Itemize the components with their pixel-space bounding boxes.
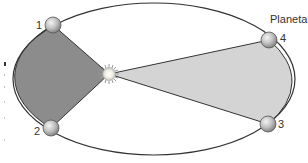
planet-4-label: 4 (280, 32, 286, 44)
kepler-equal-areas-diagram: 1 2 3 4 Planeta (0, 0, 308, 163)
swept-area-sector-1-2 (15, 25, 109, 128)
planet-sphere-icon (261, 32, 277, 48)
planet-1-label: 1 (36, 19, 42, 31)
swept-area-sector-3-4 (109, 40, 292, 124)
planeta-label: Planeta (270, 13, 308, 25)
planet-2-label: 2 (34, 125, 40, 137)
planet-sphere-icon (43, 120, 59, 136)
planet-sphere-icon (260, 116, 276, 132)
planet-sphere-icon (45, 17, 61, 33)
planet-1: 1 (36, 17, 61, 33)
planet-3: 3 (260, 116, 284, 132)
planet-3-label: 3 (278, 118, 284, 130)
planet-4: 4 (261, 32, 286, 48)
cropped-edge-marks (4, 62, 6, 141)
sun-icon (99, 64, 119, 84)
